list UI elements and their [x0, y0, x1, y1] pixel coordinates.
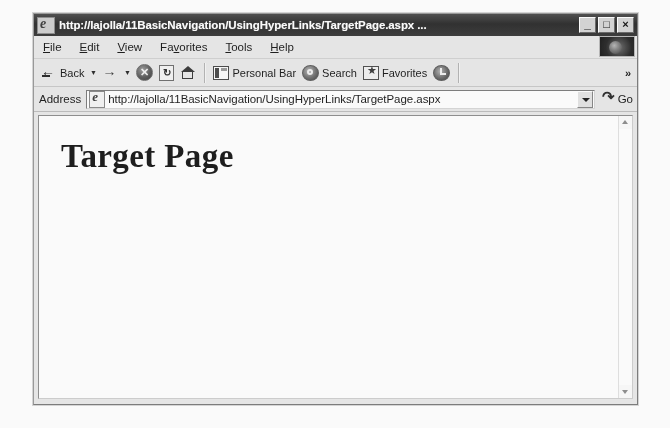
menu-item-view[interactable]: View: [108, 39, 151, 55]
stop-icon: ✕: [136, 64, 153, 81]
navigation-toolbar: Back ▼ ▼ ✕ ↻ Personal Bar: [34, 59, 637, 87]
back-arrow-icon: [41, 66, 57, 80]
internet-explorer-animated-logo: [599, 36, 635, 57]
forward-arrow-icon: [102, 66, 118, 80]
menu-help-post: elp: [279, 41, 294, 53]
close-button[interactable]: ×: [617, 17, 634, 33]
refresh-icon: ↻: [159, 65, 174, 81]
personal-bar-label: Personal Bar: [232, 67, 296, 79]
favorites-button[interactable]: Favorites: [360, 61, 430, 85]
home-icon: [180, 65, 196, 80]
toolbar-separator-2: [458, 63, 459, 83]
close-icon: ×: [618, 19, 633, 30]
go-arrow-icon: [603, 93, 616, 106]
menu-edit-post: dit: [87, 41, 99, 53]
page-icon: [89, 91, 105, 108]
window-controls: _ □ ×: [579, 17, 635, 33]
chevron-down-icon[interactable]: [577, 91, 593, 108]
menu-view-post: iew: [125, 41, 142, 53]
menu-item-favorites[interactable]: Favorites: [151, 39, 216, 55]
scrollbar-track[interactable]: [619, 129, 632, 385]
window-title: http://lajolla/11BasicNavigation/UsingHy…: [59, 19, 579, 31]
minimize-button[interactable]: _: [579, 17, 596, 33]
address-url-text[interactable]: http://lajolla/11BasicNavigation/UsingHy…: [108, 93, 576, 105]
address-label: Address: [39, 93, 81, 105]
menu-item-edit[interactable]: Edit: [71, 39, 109, 55]
menu-bar: File Edit View Favorites Tools Help: [34, 36, 637, 59]
stop-glyph: ✕: [137, 65, 152, 80]
refresh-button[interactable]: ↻: [156, 61, 177, 85]
history-button[interactable]: [430, 61, 453, 85]
toolbar-separator-1: [204, 63, 205, 83]
menu-favorites-pre: Fa: [160, 41, 173, 53]
go-button[interactable]: Go: [603, 93, 633, 106]
menu-item-tools[interactable]: Tools: [216, 39, 261, 55]
back-button-label: Back: [60, 67, 84, 79]
menu-favorites-post: orites: [179, 41, 207, 53]
scroll-up-arrow-icon[interactable]: [619, 116, 632, 129]
menu-item-file[interactable]: File: [34, 39, 71, 55]
menu-view-accel: V: [117, 41, 124, 53]
personal-bar-button[interactable]: Personal Bar: [210, 61, 299, 85]
vertical-scrollbar[interactable]: [618, 116, 632, 398]
go-button-label: Go: [618, 93, 633, 105]
scroll-down-arrow-icon[interactable]: [619, 385, 632, 398]
search-button-label: Search: [322, 67, 357, 79]
browser-content-area: Target Page: [38, 115, 633, 399]
maximize-icon: □: [599, 19, 614, 30]
menu-file-post: ile: [50, 41, 62, 53]
screenshot-root: http://lajolla/11BasicNavigation/UsingHy…: [0, 0, 670, 428]
menu-file-accel: F: [43, 41, 50, 53]
address-bar: Address http://lajolla/11BasicNavigation…: [34, 87, 637, 112]
favorites-button-label: Favorites: [382, 67, 427, 79]
back-button[interactable]: Back: [38, 61, 87, 85]
toolbar-overflow-chevron[interactable]: »: [625, 67, 631, 79]
forward-button[interactable]: [99, 61, 121, 85]
address-input[interactable]: http://lajolla/11BasicNavigation/UsingHy…: [86, 90, 594, 109]
menu-item-help[interactable]: Help: [261, 39, 303, 55]
history-icon: [433, 65, 450, 81]
page-document: Target Page: [39, 116, 618, 398]
back-history-dropdown[interactable]: ▼: [87, 69, 99, 76]
stop-button[interactable]: ✕: [133, 61, 156, 85]
search-icon: [302, 65, 319, 81]
favorites-star-icon: [363, 66, 379, 80]
maximize-button[interactable]: □: [598, 17, 615, 33]
menu-help-accel: H: [270, 41, 278, 53]
search-button[interactable]: Search: [299, 61, 360, 85]
refresh-glyph: ↻: [160, 66, 173, 80]
personal-bar-icon: [213, 66, 229, 80]
minimize-icon: _: [580, 18, 595, 30]
forward-history-dropdown[interactable]: ▼: [121, 69, 133, 76]
menu-tools-post: ools: [231, 41, 252, 53]
window-titlebar[interactable]: http://lajolla/11BasicNavigation/UsingHy…: [34, 14, 637, 36]
browser-window: http://lajolla/11BasicNavigation/UsingHy…: [33, 13, 638, 405]
internet-explorer-icon: [37, 17, 55, 34]
page-title: Target Page: [61, 138, 618, 175]
home-button[interactable]: [177, 61, 199, 85]
